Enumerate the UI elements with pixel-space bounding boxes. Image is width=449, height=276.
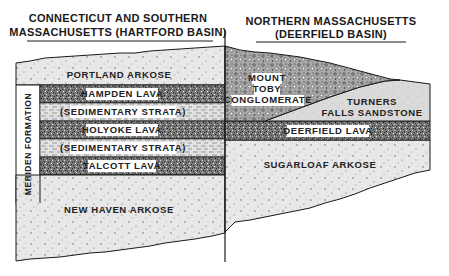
- label-sedimentary-strata-1: (SEDIMENTARY STRATA): [60, 106, 186, 117]
- label-sugarloaf-arkose: SUGARLOAF ARKOSE: [264, 159, 377, 170]
- label-mount-toby-line1: MOUNT: [248, 72, 286, 83]
- label-portland-arkose: PORTLAND ARKOSE: [67, 69, 172, 80]
- hartford-title-line1: CONNECTICUT AND SOUTHERN: [29, 12, 208, 24]
- label-deerfield-lava: DEERFIELD LAVA: [283, 125, 372, 136]
- hartford-basin-title: CONNECTICUT AND SOUTHERN MASSACHUSETTS (…: [9, 12, 226, 41]
- deerfield-basin-title: NORTHERN MASSACHUSETTS (DEERFIELD BASIN): [246, 15, 417, 42]
- stratigraphic-diagram: CONNECTICUT AND SOUTHERN MASSACHUSETTS (…: [0, 0, 449, 276]
- label-turners-falls-line1: TURNERS: [347, 96, 397, 107]
- hartford-title-line2: MASSACHUSETTS (HARTFORD BASIN): [9, 26, 226, 38]
- label-sedimentary-strata-2: (SEDIMENTARY STRATA): [60, 142, 186, 153]
- layer-new-haven-arkose: [16, 175, 225, 261]
- label-new-haven-arkose: NEW HAVEN ARKOSE: [64, 204, 174, 215]
- label-mount-toby-line2: TOBY: [253, 83, 282, 94]
- label-talcott-lava: TALCOTT LAVA: [83, 160, 161, 171]
- deerfield-title-line1: NORTHERN MASSACHUSETTS: [246, 15, 417, 27]
- deerfield-title-line2: (DEERFIELD BASIN): [275, 28, 387, 40]
- layer-sugarloaf-arkose: [225, 140, 430, 232]
- label-hampden-lava: HAMPDEN LAVA: [81, 88, 163, 99]
- label-turners-falls-line2: FALLS SANDSTONE: [321, 107, 422, 118]
- label-mount-toby-line3: CONGLOMERATE: [224, 94, 312, 105]
- label-holyoke-lava: HOLYOKE LAVA: [82, 124, 162, 135]
- label-meriden-formation: MERIDEN FORMATION: [23, 93, 33, 196]
